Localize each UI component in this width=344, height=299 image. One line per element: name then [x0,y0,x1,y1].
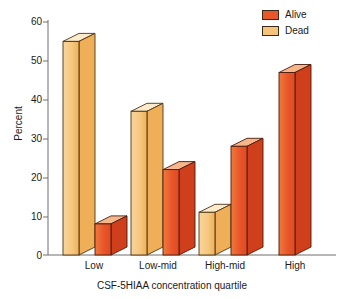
bar-high-mid-alive [231,138,263,255]
bar-chart: Alive Dead 60 50 40 30 20 10 0 Percent L… [0,0,344,299]
bar-high-mid-dead [199,204,231,255]
bar-low-mid-dead [131,103,163,255]
bar-low-alive [95,216,127,255]
bar-low-dead [63,33,95,255]
bar-low-mid-alive [163,162,195,255]
bar-high-alive [279,65,311,256]
y-tick-marks [43,22,48,255]
plot-area [0,0,344,299]
